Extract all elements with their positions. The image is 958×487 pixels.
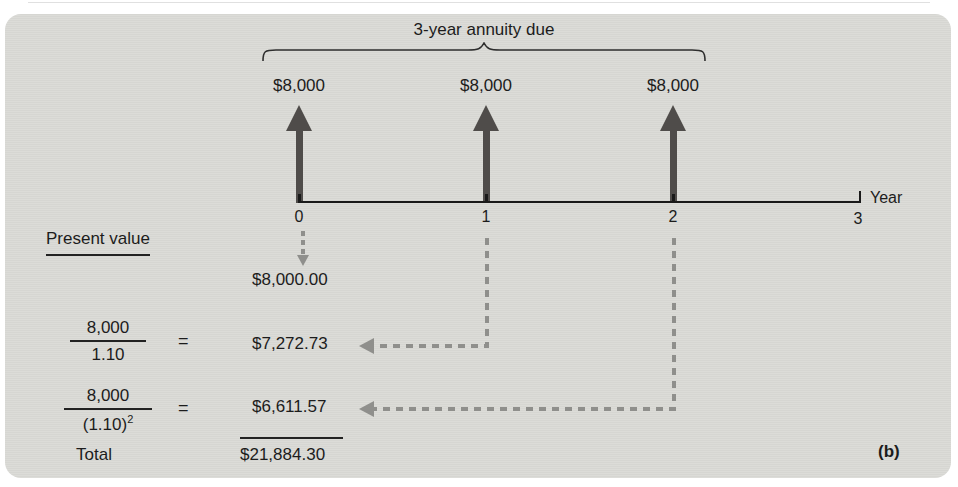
pv-value-year0: $8,000.00 xyxy=(252,270,328,290)
brace-label: 3-year annuity due xyxy=(312,20,656,40)
fraction-denominator: 1.10 xyxy=(70,345,146,365)
tick-label-0: 0 xyxy=(288,208,310,226)
tick-label-3: 3 xyxy=(847,210,869,228)
total-rule xyxy=(240,437,343,439)
total-label: Total xyxy=(76,445,112,465)
arrow-shaft xyxy=(483,131,490,203)
fraction-bar xyxy=(70,340,146,342)
tick-mark-1 xyxy=(485,194,488,203)
fraction-numerator: 8,000 xyxy=(64,386,152,406)
equals-sign: = xyxy=(178,398,189,419)
subfigure-label: (b) xyxy=(878,442,900,462)
arrow-head xyxy=(473,105,499,131)
cash-flow-label: $8,000 xyxy=(254,76,344,96)
arrow-shaft xyxy=(670,131,677,203)
timeline-axis xyxy=(300,201,861,203)
tick-mark-2 xyxy=(672,194,675,203)
fraction-numerator: 8,000 xyxy=(70,318,146,338)
fraction-denominator: (1.10)2 xyxy=(64,413,152,435)
cash-flow-arrow-icon xyxy=(286,105,312,203)
year-axis-label: Year xyxy=(870,189,902,207)
tick-label-2: 2 xyxy=(662,208,684,226)
arrow-head xyxy=(660,105,686,131)
cash-flow-label: $8,000 xyxy=(628,76,718,96)
pv-discount-down-arrow-icon xyxy=(296,231,310,267)
equals-sign: = xyxy=(178,331,189,352)
arrow-shaft xyxy=(296,131,303,203)
pv-heading: Present value xyxy=(46,229,150,256)
cash-flow-arrow-icon xyxy=(660,105,686,203)
top-hairline xyxy=(28,2,930,3)
cash-flow-label: $8,000 xyxy=(441,76,531,96)
pv-discount-path-year2 xyxy=(358,234,680,420)
pv-value-year2: $6,611.57 xyxy=(252,397,326,417)
fraction-bar xyxy=(64,408,152,410)
pv-value-year1: $7,272.73 xyxy=(252,334,328,354)
pv-formula-year2: 8,000 (1.10)2 xyxy=(64,386,152,435)
annuity-brace xyxy=(262,42,706,62)
total-value: $21,884.30 xyxy=(240,445,325,465)
tick-label-1: 1 xyxy=(475,208,497,226)
arrow-head xyxy=(286,105,312,131)
denominator-exponent: 2 xyxy=(127,413,133,425)
pv-formula-year1: 8,000 1.10 xyxy=(70,318,146,365)
cash-flow-arrow-icon xyxy=(473,105,499,203)
denominator-base: (1.10) xyxy=(83,415,127,434)
left-arrow-head xyxy=(359,401,374,417)
tick-mark-0 xyxy=(298,194,301,203)
tick-mark-3 xyxy=(859,191,861,203)
